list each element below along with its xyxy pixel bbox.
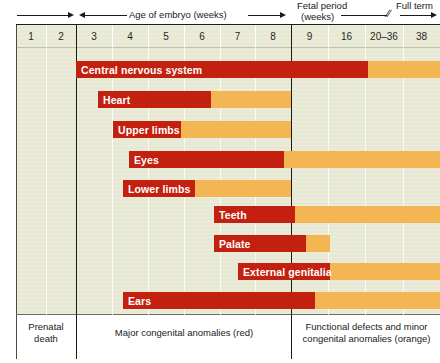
week-label-4: 4 bbox=[112, 25, 148, 47]
legend-functional-line1: Functional defects and minor bbox=[293, 321, 440, 333]
week-label-9: 9 bbox=[291, 25, 328, 47]
week-label-6: 6 bbox=[184, 25, 220, 47]
legend-functional-line2: congenital anomalies (orange) bbox=[293, 333, 440, 345]
axis-break-slash: // bbox=[384, 8, 392, 19]
bar-red-segment: Eyes bbox=[129, 151, 284, 168]
bar-label: External genitalia bbox=[238, 266, 337, 278]
week-label-8: 8 bbox=[255, 25, 291, 47]
bar-red-segment: Central nervous system bbox=[76, 61, 368, 78]
timeline-board: 1 2 3 4 5 6 7 8 9 16 20–36 38 Central ne… bbox=[16, 24, 440, 315]
bar-heart[interactable]: Heart bbox=[98, 91, 291, 108]
period-arrow-band: Age of embryo (weeks) Fetal period (week… bbox=[0, 0, 440, 24]
week-label-38: 38 bbox=[403, 25, 440, 47]
bar-orange-segment bbox=[330, 263, 440, 280]
week-label-3: 3 bbox=[76, 25, 112, 47]
fetal-period-label-line2: (weeks) bbox=[301, 11, 334, 22]
fetal-period-label-line1: Fetal period bbox=[297, 0, 347, 11]
legend-footer: Prenatal death Major congenital anomalie… bbox=[16, 315, 440, 363]
bar-lower-limbs[interactable]: Lower limbs bbox=[123, 180, 291, 197]
week-label-5: 5 bbox=[148, 25, 184, 47]
bar-orange-segment bbox=[211, 91, 291, 108]
bar-label: Heart bbox=[98, 94, 135, 106]
header-row-underline bbox=[16, 47, 440, 48]
bar-orange-segment bbox=[181, 121, 291, 138]
week-label-7: 7 bbox=[220, 25, 255, 47]
week-label-16: 16 bbox=[328, 25, 365, 47]
bar-red-segment: Heart bbox=[98, 91, 211, 108]
bar-red-segment: Palate bbox=[214, 235, 306, 252]
bar-orange-segment bbox=[368, 61, 440, 78]
bar-eyes[interactable]: Eyes bbox=[129, 151, 440, 168]
bar-palate[interactable]: Palate bbox=[214, 235, 330, 252]
board-left-border bbox=[16, 25, 17, 315]
bar-red-segment: Lower limbs bbox=[123, 180, 195, 197]
legend-prenatal-death: Prenatal death bbox=[16, 321, 76, 345]
fetal-arrow-line-right bbox=[400, 15, 432, 16]
week-label-2: 2 bbox=[46, 25, 76, 47]
bar-upper-limbs[interactable]: Upper limbs bbox=[113, 121, 291, 138]
critical-periods-chart: Age of embryo (weeks) Fetal period (week… bbox=[0, 0, 440, 363]
week-label-1: 1 bbox=[16, 25, 46, 47]
bar-orange-segment bbox=[195, 180, 291, 197]
bar-red-segment: Upper limbs bbox=[113, 121, 181, 138]
bar-label: Teeth bbox=[214, 209, 252, 221]
bar-label: Ears bbox=[123, 295, 156, 307]
prenatal-arrow-line bbox=[17, 15, 69, 16]
embryo-period-label: Age of embryo (weeks) bbox=[129, 9, 227, 20]
embryo-arrow-line-left bbox=[85, 15, 127, 16]
bar-orange-segment bbox=[284, 151, 440, 168]
embryo-arrow-line-right bbox=[248, 15, 280, 16]
fetal-arrowhead-right bbox=[431, 12, 437, 18]
week-label-20-36: 20–36 bbox=[365, 25, 403, 47]
bar-red-segment: Teeth bbox=[214, 206, 295, 223]
bar-label: Eyes bbox=[129, 154, 164, 166]
bar-central-nervous-system[interactable]: Central nervous system bbox=[76, 61, 440, 78]
bar-orange-segment bbox=[315, 292, 440, 309]
fetal-arrow-line-left bbox=[341, 15, 387, 16]
bar-label: Upper limbs bbox=[113, 124, 185, 136]
bar-red-segment: Ears bbox=[123, 292, 315, 309]
legend-prenatal-line2: death bbox=[16, 333, 76, 345]
bar-red-segment: External genitalia bbox=[238, 263, 330, 280]
bar-label: Central nervous system bbox=[76, 64, 207, 76]
bar-teeth[interactable]: Teeth bbox=[214, 206, 440, 223]
bar-label: Lower limbs bbox=[123, 183, 195, 195]
legend-major-anomalies: Major congenital anomalies (red) bbox=[78, 327, 290, 339]
bar-label: Palate bbox=[214, 238, 256, 250]
bar-orange-segment bbox=[295, 206, 440, 223]
bar-ears[interactable]: Ears bbox=[123, 292, 440, 309]
bar-orange-segment bbox=[306, 235, 330, 252]
full-term-label: Full term bbox=[396, 0, 433, 11]
legend-functional-defects: Functional defects and minor congenital … bbox=[293, 321, 440, 345]
embryo-arrowhead-right bbox=[280, 12, 286, 18]
legend-prenatal-line1: Prenatal bbox=[16, 321, 76, 333]
prenatal-arrowhead-right bbox=[68, 12, 74, 18]
gridline-week-2 bbox=[46, 25, 47, 315]
bar-external-genitalia[interactable]: External genitalia bbox=[238, 263, 440, 280]
